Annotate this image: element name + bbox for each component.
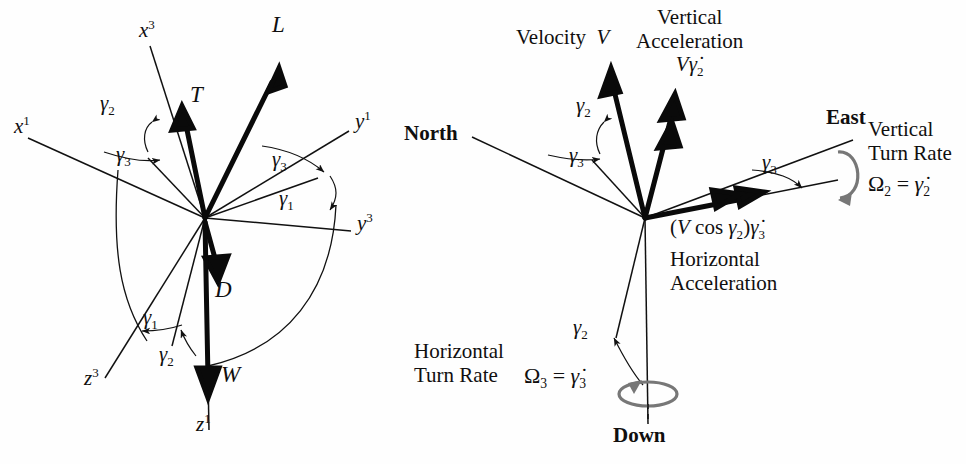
vector-label-vertical-acceleration: VerticalAccelerationVγ̇2 [636, 6, 743, 80]
angle-label-gamma3-left-right: γ3 [569, 144, 584, 171]
angle-arc-gamma1-right [330, 176, 336, 210]
axis-down-line [645, 218, 648, 424]
vector-diagram-svg [0, 0, 966, 464]
axis-z3-line [105, 218, 205, 378]
vector-horiz-accel-head1 [736, 188, 764, 206]
angle-label-gamma1-right: γ1 [279, 187, 294, 214]
force-label-thrust: T [190, 82, 203, 108]
axis-y3-line [205, 218, 351, 231]
angle-arc-gamma3-left [104, 152, 160, 161]
axis-label-x3: x3 [139, 18, 155, 43]
axis-label-north: North [404, 122, 458, 146]
axis-label-y3: y3 [357, 211, 373, 236]
construction-line-down-tilt [616, 218, 645, 338]
angle-label-gamma2-lower: γ2 [159, 343, 174, 370]
angle-label-gamma2-lower-right: γ2 [573, 316, 588, 343]
force-label-drag: D [215, 277, 232, 303]
left-angle-arcs [104, 122, 336, 356]
vertical-turn-rate-equation: Ω2 = γ̇2 [868, 172, 930, 200]
axis-label-z3: z3 [84, 366, 99, 391]
angle-arc-gamma2-upper-r [597, 122, 604, 154]
vector-velocity-shaft [613, 86, 645, 218]
angle-label-gamma3-left: γ3 [116, 143, 131, 170]
vector-velocity-head [601, 68, 620, 96]
axis-x3-line [150, 46, 205, 218]
angle-label-gamma2-upper-left: γ2 [100, 92, 115, 119]
vector-weight-head [197, 368, 219, 398]
left-force-vectors [172, 68, 285, 398]
axis-label-x1: x1 [14, 114, 30, 139]
horizontal-acceleration-label: HorizontalAcceleration [670, 248, 777, 295]
horizontal-turn-rate-equation: Ω3 = γ̇3 [524, 364, 586, 392]
axis-label-east: East [826, 106, 866, 130]
angle-label-gamma3-right: γ3 [272, 148, 287, 175]
angle-arc-gamma2-upper [145, 122, 152, 152]
vector-label-velocity: Velocity V [516, 26, 609, 50]
axis-label-y1: y1 [355, 109, 371, 134]
force-label-weight: W [221, 362, 240, 388]
angle-label-gamma1-lower: γ1 [143, 306, 158, 333]
angle-arc-gamma3-right-r [752, 170, 802, 188]
horizontal-turn-rate-spin-head [628, 380, 642, 394]
axis-label-z1: z1 [196, 412, 211, 437]
figure-canvas: x1 x3 y1 y3 z1 z3 L T D W γ2 γ3 γ3 γ1 γ1… [0, 0, 966, 464]
horizontal-turn-rate-label: HorizontalTurn Rate [414, 340, 504, 387]
angle-label-gamma2-upper-right: γ2 [576, 94, 591, 121]
vector-thrust-shaft [185, 120, 205, 218]
vector-thrust-head [172, 106, 193, 130]
vertical-turn-rate-spin-head [838, 192, 852, 206]
axis-label-down: Down [613, 424, 666, 448]
angle-arc-gamma2-lower-r [614, 338, 643, 385]
vector-vert-accel-head2 [658, 122, 680, 148]
vector-vert-accel-head1 [661, 94, 683, 120]
force-label-lift: L [272, 12, 285, 38]
axis-north-line [472, 137, 645, 218]
horizontal-acceleration-equation: (V cos γ2)γ̇3 [670, 216, 765, 243]
angle-label-gamma3-right-right: γ3 [762, 151, 777, 178]
vertical-turn-rate-spin [838, 152, 858, 198]
angle-arc-gamma2-lower [181, 330, 196, 356]
vector-weight-shaft [205, 222, 208, 378]
axis-east-line [645, 140, 853, 218]
vector-horiz-accel-head2 [712, 190, 740, 208]
vertical-turn-rate-label: VerticalTurn Rate [868, 118, 952, 165]
